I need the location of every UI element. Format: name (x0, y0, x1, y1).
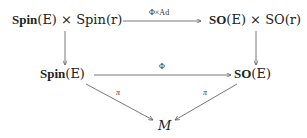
node-so-e-times-so-r: SO(E) × SO(r) (209, 12, 301, 28)
label-phi: Φ (159, 62, 165, 71)
node-spin-e: Spin(E) (40, 66, 85, 82)
label-phi-times-ad: Φ×Ad (149, 8, 169, 17)
label-pi-left: π (116, 88, 120, 97)
node-so-e: SO(E) (234, 66, 271, 82)
commutative-diagram: Spin(E) × Spin(r) SO(E) × SO(r) Spin(E) … (0, 0, 307, 138)
node-m: M (158, 118, 171, 133)
label-pi-right: π (203, 88, 207, 97)
node-spin-e-times-spin-r: Spin(E) × Spin(r) (12, 12, 122, 28)
